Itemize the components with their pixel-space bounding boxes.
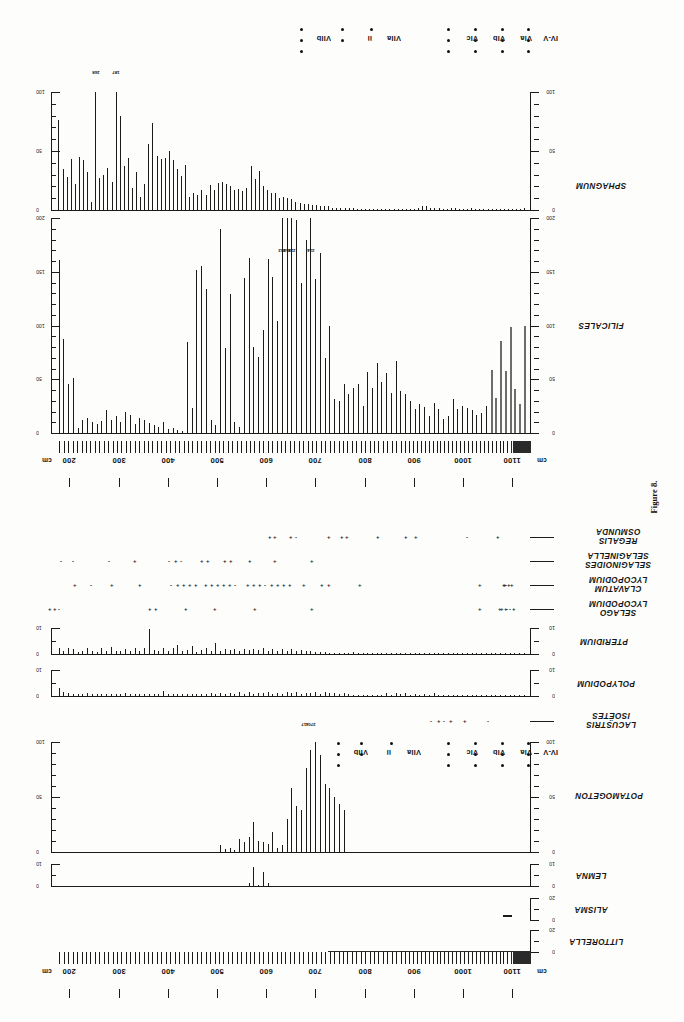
sample-tick — [215, 952, 216, 964]
sample-tick — [254, 441, 255, 453]
taxon-genus: CLAVATUM — [556, 584, 680, 593]
bar — [253, 867, 254, 886]
sample-tick — [152, 441, 153, 453]
zone-boundary-dot — [474, 39, 477, 42]
bar — [400, 391, 401, 433]
bar — [215, 643, 216, 654]
axis-tick-label: 10 — [541, 667, 555, 672]
taxon-label-lycopodium: CLAVATUMLYCOPODIUM — [556, 575, 680, 593]
axis-tick-label: 50 — [541, 148, 555, 153]
sample-tick — [460, 952, 461, 964]
bar — [128, 158, 129, 210]
sample-tick — [484, 441, 485, 453]
sample-tick — [188, 441, 189, 453]
occurrence-mark: + — [273, 558, 277, 564]
axis-tick-minor — [534, 293, 539, 294]
occurrence-mark: + — [73, 582, 77, 588]
occurrence-mark: - — [487, 718, 489, 724]
sample-tick — [488, 952, 489, 964]
bar-value-annotation: 228 — [286, 248, 298, 253]
panel-alisma: 020 ALISMA — [0, 896, 684, 930]
occurrence-mark: + — [437, 718, 441, 724]
axis-tick-minor — [534, 412, 539, 413]
axis-tick-minor — [534, 283, 539, 284]
sample-tick — [347, 952, 348, 964]
sample-tick — [383, 441, 384, 453]
sample-tick — [272, 441, 273, 453]
sample-tick — [232, 952, 233, 964]
axis-tick-major — [530, 628, 539, 629]
bar — [206, 195, 207, 210]
bar — [125, 412, 126, 434]
depth-major-tick — [119, 478, 120, 487]
potamogeton-plot-area — [57, 742, 527, 852]
axis-tick-minor — [51, 401, 56, 402]
bar — [372, 388, 373, 433]
axis-tick-minor — [51, 250, 56, 251]
axis-tick-minor — [534, 250, 539, 251]
bar — [325, 784, 326, 852]
sample-tick — [378, 952, 379, 964]
occurrence-mark: + — [138, 582, 142, 588]
bar — [67, 177, 68, 210]
axis-tick-minor — [534, 683, 539, 684]
axis-tick-label: 150 — [541, 269, 555, 274]
bar — [83, 160, 84, 210]
bar — [149, 423, 150, 433]
bar — [491, 370, 493, 433]
sample-tick — [73, 441, 74, 453]
occurrence-mark: + — [154, 606, 158, 612]
axis-tick-minor — [51, 390, 56, 391]
axis-tick-label: 10 — [36, 861, 50, 866]
bar — [58, 120, 59, 210]
sample-tick — [166, 952, 167, 964]
sample-tick — [480, 952, 481, 964]
sample-tick — [188, 952, 189, 964]
sample-tick — [139, 952, 140, 964]
sample-tick — [281, 952, 282, 964]
bar — [181, 176, 182, 210]
sample-tick — [352, 441, 353, 453]
depth-tick-label: 1100 — [500, 456, 524, 465]
depth-major-tick — [414, 989, 415, 998]
bar — [242, 191, 243, 210]
bar — [267, 190, 268, 210]
taxon-label-isoetes: LACUSTRISISOËTES — [556, 711, 666, 729]
isoetes-value-annotation: 270 — [306, 722, 318, 727]
taxon-leader-line — [530, 585, 554, 586]
pteridium-axis-right: 010 — [530, 628, 539, 654]
depth-tick-label: 400 — [156, 456, 180, 465]
bar — [306, 768, 307, 852]
occurrence-mark: + — [282, 582, 286, 588]
axis-tick-minor — [534, 240, 539, 241]
sample-tick — [108, 952, 109, 964]
sample-tick — [330, 441, 331, 453]
bar — [99, 178, 100, 210]
sample-tick — [192, 441, 193, 453]
occurrence-mark: + — [414, 534, 418, 540]
bar — [238, 189, 239, 210]
sample-tick — [456, 441, 457, 453]
sample-tick — [170, 441, 171, 453]
occurrence-mark: - — [466, 534, 468, 540]
axis-tick-label: 0 — [36, 207, 50, 212]
sample-tick — [184, 441, 185, 453]
bar — [263, 330, 264, 433]
sample-tick — [417, 441, 418, 453]
axis-tick-label: 0 — [541, 430, 555, 435]
depth-tick-label: 900 — [402, 967, 426, 976]
sample-tick — [73, 952, 74, 964]
bar — [514, 389, 516, 433]
sample-tick — [59, 441, 60, 453]
sample-tick — [68, 952, 69, 964]
sample-tick — [347, 441, 348, 453]
bar — [329, 326, 330, 434]
sample-tick — [325, 952, 326, 964]
axis-tick-minor — [51, 175, 56, 176]
depth-major-tick — [217, 989, 218, 998]
bar — [486, 406, 487, 433]
axis-tick-minor — [534, 261, 539, 262]
axis-tick-label: 100 — [541, 323, 555, 328]
axis-tick-label: 50 — [36, 376, 50, 381]
occurrence-mark: + — [449, 718, 453, 724]
